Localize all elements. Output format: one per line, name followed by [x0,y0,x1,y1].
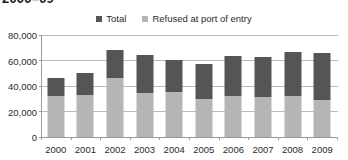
x-axis-label: 2005 [193,144,214,155]
x-axis-label: 2000 [45,144,66,155]
y-axis-label: 20,000 [8,106,37,117]
x-tick-mark [278,137,279,140]
bar-stack[interactable] [225,56,242,137]
y-axis-label: 0 [32,132,37,143]
bar-group[interactable] [307,35,337,137]
bar-group[interactable] [100,35,130,137]
x-axis-label: 2006 [223,144,244,155]
bar-segment-total[interactable] [136,55,153,93]
bar-stack[interactable] [77,73,94,137]
y-axis-label: 80,000 [8,30,37,41]
bar-segment-refused[interactable] [77,95,94,137]
x-tick-mark [307,137,308,140]
bar-segment-total[interactable] [284,52,301,96]
y-axis-label: 40,000 [8,81,37,92]
bar-segment-total[interactable] [166,60,183,92]
bar-segment-total[interactable] [254,57,271,97]
x-tick-mark [159,137,160,140]
bar-stack[interactable] [284,52,301,137]
bar-segment-refused[interactable] [166,92,183,137]
bar-segment-total[interactable] [77,73,94,95]
bar-segment-total[interactable] [195,64,212,99]
bar-group[interactable] [219,35,249,137]
x-tick-mark [337,137,338,140]
bar-segment-refused[interactable] [254,97,271,137]
chart-x-axis: 2000200120022003200420052006200720082009 [41,137,337,160]
bar-stack[interactable] [254,57,271,137]
bar-segment-refused[interactable] [195,99,212,137]
x-tick-mark [71,137,72,140]
bar-group[interactable] [130,35,160,137]
bar-segment-refused[interactable] [314,100,331,137]
x-tick-mark [41,137,42,140]
bar-stack[interactable] [106,50,123,137]
x-axis-label: 2004 [164,144,185,155]
bar-segment-refused[interactable] [47,96,64,137]
bar-group[interactable] [189,35,219,137]
y-axis-label: 60,000 [8,55,37,66]
bar-group[interactable] [278,35,308,137]
x-tick-mark [248,137,249,140]
bar-group[interactable] [159,35,189,137]
bar-segment-refused[interactable] [136,93,153,137]
bar-segment-total[interactable] [314,53,331,100]
x-tick-mark [100,137,101,140]
bar-segment-total[interactable] [47,78,64,96]
bar-segment-total[interactable] [225,56,242,96]
x-tick-mark [219,137,220,140]
bar-stack[interactable] [136,55,153,137]
bar-stack[interactable] [47,78,64,137]
bar-group[interactable] [248,35,278,137]
x-axis-label: 2003 [134,144,155,155]
x-axis-label: 2002 [104,144,125,155]
x-tick-mark [189,137,190,140]
bar-segment-refused[interactable] [225,96,242,137]
chart-bars-layer [41,35,337,137]
x-tick-mark [130,137,131,140]
bar-group[interactable] [71,35,101,137]
bar-group[interactable] [41,35,71,137]
bar-segment-refused[interactable] [284,96,301,137]
chart-plot-wrapper: 020,00040,00060,00080,000 20002001200220… [0,0,348,160]
x-axis-label: 2009 [312,144,333,155]
bar-stack[interactable] [195,64,212,137]
x-axis-label: 2007 [252,144,273,155]
x-axis-label: 2001 [75,144,96,155]
bar-segment-refused[interactable] [106,78,123,137]
x-axis-label: 2008 [282,144,303,155]
bar-segment-total[interactable] [106,50,123,78]
bar-stack[interactable] [314,53,331,137]
bar-stack[interactable] [166,60,183,137]
